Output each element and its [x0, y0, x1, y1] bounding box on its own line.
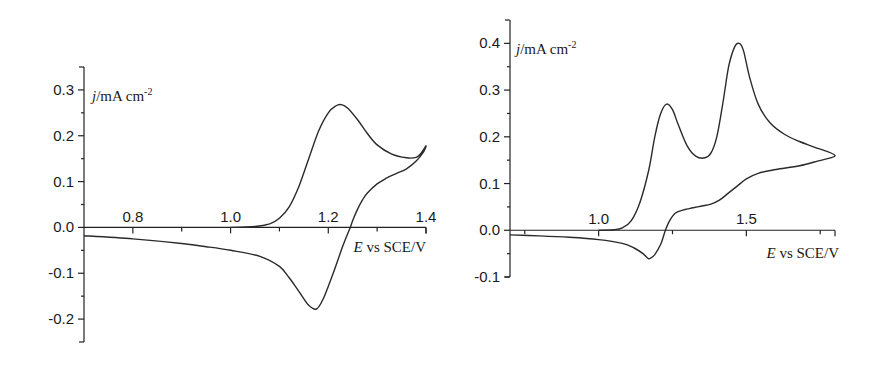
left-cv-chart: -0.2-0.10.00.10.20.30.81.01.21.4j/mA cm-… — [48, 67, 436, 342]
y-tick-label: 0.3 — [479, 81, 500, 98]
x-tick-label: 1.4 — [416, 208, 437, 225]
y-tick-label: 0.0 — [53, 218, 74, 235]
figure-canvas: -0.2-0.10.00.10.20.30.81.01.21.4j/mA cm-… — [0, 0, 881, 365]
cv-curve — [84, 104, 426, 309]
x-axis-title: E vs SCE/V — [765, 245, 839, 261]
y-tick-label: 0.0 — [479, 221, 500, 238]
x-tick-label: 1.5 — [736, 210, 757, 227]
y-tick-label: -0.1 — [474, 268, 500, 285]
y-tick-label: 0.2 — [479, 128, 500, 145]
y-tick-label: 0.4 — [479, 34, 500, 51]
y-axis-title: j/mA cm-2 — [514, 39, 576, 57]
y-tick-label: 0.2 — [53, 127, 74, 144]
right-cv-chart: -0.10.00.10.20.30.41.01.5j/mA cm-2E vs S… — [474, 20, 839, 285]
y-tick-label: -0.1 — [48, 264, 74, 281]
y-tick-label: -0.2 — [48, 310, 74, 327]
x-tick-label: 1.0 — [588, 210, 609, 227]
y-tick-label: 0.3 — [53, 81, 74, 98]
x-tick-label: 1.2 — [318, 208, 339, 225]
y-axis-title: j/mA cm-2 — [90, 86, 152, 104]
y-tick-label: 0.1 — [53, 173, 74, 190]
y-tick-label: 0.1 — [479, 175, 500, 192]
x-tick-label: 1.0 — [220, 208, 241, 225]
x-tick-label: 0.8 — [122, 208, 143, 225]
x-axis-title: E vs SCE/V — [352, 239, 426, 255]
cv-curve — [510, 43, 835, 259]
